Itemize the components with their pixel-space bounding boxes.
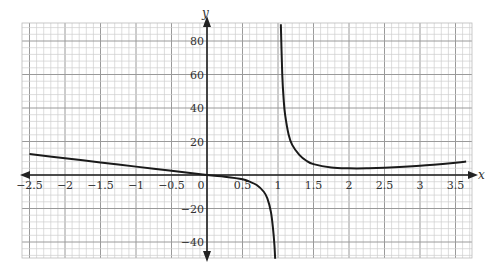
y-tick-label: −40 — [181, 236, 204, 249]
y-tick-label: −20 — [181, 203, 204, 216]
y-tick-label: 20 — [190, 136, 204, 149]
x-tick-label: 2 — [346, 179, 353, 192]
y-axis-label: y — [201, 6, 209, 20]
x-tick-label: −2 — [57, 179, 73, 192]
x-tick-label: 1 — [275, 179, 282, 192]
function-graph: −2.5−2−1.5−1−0.500.511.522.533.580604020… — [0, 0, 497, 276]
x-tick-label: −1 — [128, 179, 144, 192]
y-tick-label: 60 — [190, 69, 204, 82]
y-tick-label: 40 — [190, 102, 204, 115]
x-axis-label: x — [478, 168, 485, 182]
left-branch-curve — [30, 154, 276, 259]
x-tick-label: 2.5 — [376, 179, 394, 192]
right-branch-curve — [281, 24, 466, 168]
x-tick-label: 3 — [417, 179, 424, 192]
x-tick-label: −1.5 — [87, 179, 114, 192]
grid — [22, 23, 472, 258]
x-tick-label: 3.5 — [447, 179, 465, 192]
x-tick-label: −2.5 — [16, 179, 43, 192]
y-tick-label: 80 — [190, 35, 204, 48]
axes — [20, 16, 478, 262]
x-tick-label: −0.5 — [158, 179, 185, 192]
x-tick-label: 1.5 — [305, 179, 323, 192]
x-tick-label: 0 — [198, 179, 205, 192]
